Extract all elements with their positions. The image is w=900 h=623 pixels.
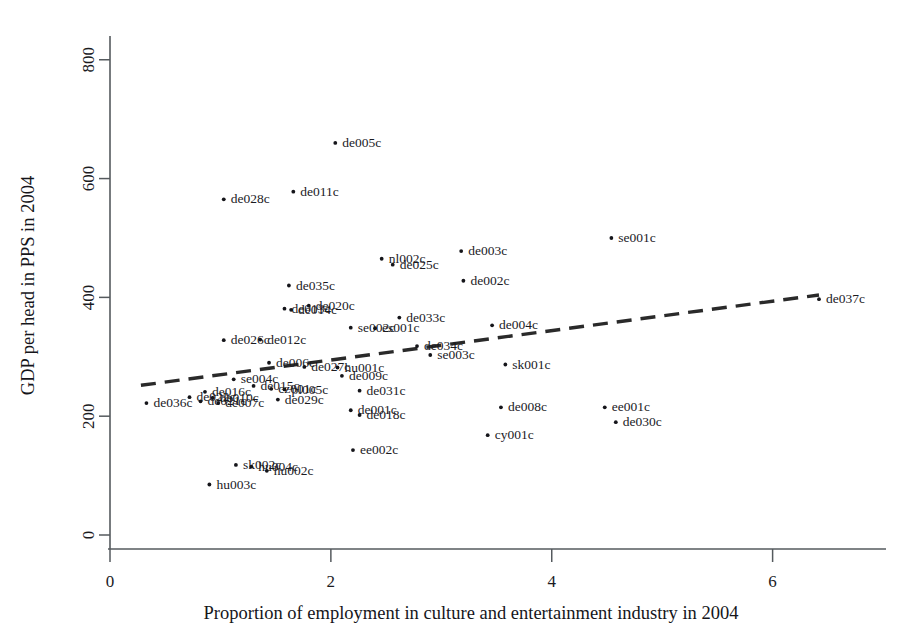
- point-marker: [415, 344, 419, 348]
- point-marker: [333, 141, 337, 145]
- point-marker: [490, 323, 494, 327]
- point-label: sk001c: [512, 357, 550, 372]
- point-marker: [216, 401, 220, 405]
- scatter-chart-figure: 02004006008000246 de036chu003csk002chu00…: [0, 0, 900, 623]
- point-marker: [249, 465, 253, 469]
- point-marker: [503, 363, 507, 367]
- point-marker: [336, 366, 340, 370]
- point-marker: [203, 390, 207, 394]
- point-marker: [199, 399, 203, 403]
- point-marker: [614, 420, 618, 424]
- y-axis-title: GDP per head in PPS in 2004: [18, 176, 38, 395]
- point-label: hu002c: [274, 463, 314, 478]
- data-point: de003c: [459, 243, 507, 258]
- point-label: de018c: [367, 407, 406, 422]
- point-marker: [289, 308, 293, 312]
- x-axis-title: Proportion of employment in culture and …: [204, 603, 739, 623]
- point-label: de005c: [342, 135, 381, 150]
- data-point: de035c: [287, 278, 335, 293]
- point-marker: [302, 365, 306, 369]
- point-label: de026c: [231, 332, 270, 347]
- point-marker: [211, 396, 215, 400]
- point-label: se003c: [437, 347, 475, 362]
- axes-group: 02004006008000246: [79, 36, 886, 591]
- point-marker: [351, 448, 355, 452]
- point-marker: [283, 307, 287, 311]
- point-label: hu001c: [344, 360, 384, 375]
- point-label: de031c: [367, 383, 406, 398]
- point-marker: [428, 353, 432, 357]
- point-label: se001c: [618, 230, 656, 245]
- point-label: de037c: [826, 291, 865, 306]
- data-point: de028c: [222, 191, 270, 206]
- point-marker: [234, 463, 238, 467]
- point-marker: [380, 257, 384, 261]
- data-points-group: de036chu003csk002chu004chu002cde022cde02…: [145, 135, 865, 492]
- data-point: de005c: [333, 135, 381, 150]
- data-point: sk001c: [503, 357, 550, 372]
- point-marker: [265, 469, 269, 473]
- point-marker: [373, 326, 377, 330]
- point-marker: [461, 279, 465, 283]
- point-marker: [499, 405, 503, 409]
- point-marker: [222, 338, 226, 342]
- point-marker: [358, 413, 362, 417]
- point-label: de007c: [225, 395, 264, 410]
- y-tick-label: 0: [79, 531, 98, 540]
- data-point: de004c: [490, 317, 538, 332]
- plot-canvas: 02004006008000246 de036chu003csk002chu00…: [0, 0, 900, 623]
- point-marker: [188, 395, 192, 399]
- point-marker: [459, 249, 463, 253]
- point-marker: [222, 197, 226, 201]
- data-point: de036c: [145, 395, 193, 410]
- y-tick-label: 800: [79, 47, 98, 72]
- point-label: de020c: [316, 298, 355, 313]
- y-tick-label: 600: [79, 166, 98, 192]
- point-marker: [817, 297, 821, 301]
- data-point: de011c: [291, 184, 338, 199]
- point-marker: [258, 338, 262, 342]
- point-marker: [358, 389, 362, 393]
- point-label: de025c: [400, 257, 439, 272]
- point-label: de028c: [231, 191, 270, 206]
- data-point: ee001c: [603, 399, 650, 414]
- data-point: cy001c: [486, 427, 534, 442]
- data-point: de026c: [222, 332, 270, 347]
- point-marker: [349, 408, 353, 412]
- point-label: cy001c: [495, 427, 534, 442]
- data-point: de030c: [614, 414, 662, 429]
- data-point: de031c: [358, 383, 406, 398]
- data-point: hu003c: [207, 477, 256, 492]
- point-marker: [391, 263, 395, 267]
- x-tick-label: 2: [327, 572, 336, 591]
- point-label: de033c: [406, 310, 445, 325]
- data-point: de008c: [499, 399, 547, 414]
- point-marker: [276, 398, 280, 402]
- data-point: se001c: [609, 230, 655, 245]
- point-marker: [609, 236, 613, 240]
- point-label: de012c: [267, 332, 306, 347]
- point-marker: [269, 387, 273, 391]
- data-point: ee002c: [351, 442, 398, 457]
- x-tick-label: 0: [106, 572, 115, 591]
- point-marker: [397, 316, 401, 320]
- x-tick-label: 6: [768, 572, 777, 591]
- point-marker: [486, 433, 490, 437]
- data-point: de002c: [461, 273, 509, 288]
- point-marker: [291, 190, 295, 194]
- point-label: ee002c: [360, 442, 398, 457]
- point-label: de035c: [296, 278, 335, 293]
- point-label: de003c: [468, 243, 507, 258]
- point-label: de004c: [499, 317, 538, 332]
- point-label: de036c: [153, 395, 192, 410]
- point-marker: [340, 374, 344, 378]
- y-tick-label: 400: [79, 285, 98, 311]
- point-label: de002c: [470, 273, 509, 288]
- point-marker: [349, 326, 353, 330]
- point-label: de029c: [285, 392, 324, 407]
- point-label: de006c: [276, 355, 315, 370]
- point-label: de008c: [508, 399, 547, 414]
- point-label: de030c: [623, 414, 662, 429]
- point-marker: [287, 284, 291, 288]
- point-label: ee001c: [612, 399, 650, 414]
